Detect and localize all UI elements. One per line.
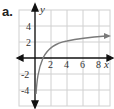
x-tick-6: 6 [80,59,85,70]
x-tick-8: 8 [96,59,101,70]
y-axis-arrow-up-icon [32,4,38,11]
x-tick-2: 2 [48,59,53,70]
x-axis-label: x [103,58,109,70]
x-axis-arrow-left-icon [17,55,23,61]
y-tick-neg2: -2 [21,69,29,80]
y-tick-neg4: -4 [21,85,29,96]
y-axis-arrow-down-icon [32,101,38,108]
y-axis-label: y [39,3,45,15]
y-tick-2: 2 [26,37,31,48]
y-tick-4: 4 [26,21,31,32]
x-tick-4: 4 [64,59,69,70]
graph: y x 2 4 6 8 4 2 -2 -4 [0,0,114,109]
